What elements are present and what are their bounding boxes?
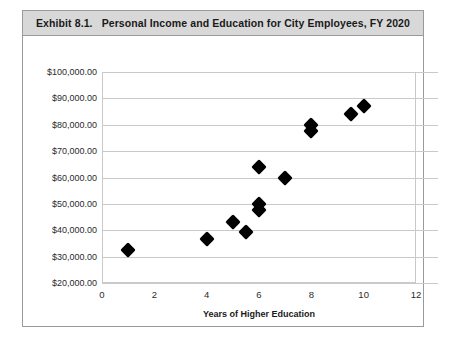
y-axis-tick-label: $70,000.00 — [23, 146, 97, 156]
x-axis-title: Years of Higher Education — [102, 309, 416, 319]
x-axis-tick-label: 8 — [309, 289, 314, 300]
y-axis-tick-label: $40,000.00 — [23, 225, 97, 235]
y-axis-tick-label: $20,000.00 — [23, 278, 97, 288]
exhibit-title-text: Personal Income and Education for City E… — [102, 17, 410, 29]
y-axis-tick-label: $30,000.00 — [23, 252, 97, 262]
exhibit-number: Exhibit 8.1. — [36, 17, 93, 29]
scatter-chart: $100,000.00$90,000.00$80,000.00$70,000.0… — [23, 37, 423, 327]
x-axis-tick-label: 4 — [204, 289, 209, 300]
exhibit-figure: Exhibit 8.1.Personal Income and Educatio… — [22, 10, 424, 327]
y-axis-tick-label: $90,000.00 — [23, 93, 97, 103]
y-axis-tick-label: $80,000.00 — [23, 120, 97, 130]
exhibit-title: Exhibit 8.1.Personal Income and Educatio… — [36, 17, 410, 29]
gridline — [102, 283, 438, 284]
y-axis-tick-label: $60,000.00 — [23, 173, 97, 183]
y-axis-tick-label: $50,000.00 — [23, 199, 97, 209]
x-axis-tick-label: 10 — [358, 289, 369, 300]
x-axis-tick-label: 12 — [411, 289, 422, 300]
exhibit-title-bar: Exhibit 8.1.Personal Income and Educatio… — [23, 11, 423, 36]
x-axis-tick-label: 6 — [256, 289, 261, 300]
y-axis-tick-label: $100,000.00 — [23, 67, 97, 77]
x-axis-tick-label: 2 — [152, 289, 157, 300]
y-axis-tick-labels: $100,000.00$90,000.00$80,000.00$70,000.0… — [23, 37, 97, 327]
x-axis-tick-label: 0 — [99, 289, 104, 300]
